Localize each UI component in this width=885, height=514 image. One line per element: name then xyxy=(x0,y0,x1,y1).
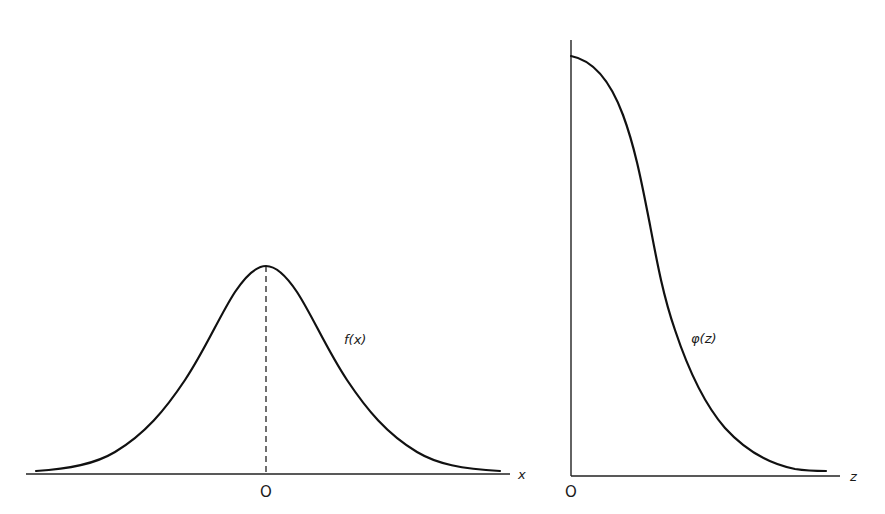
left-panel: f(x) x O xyxy=(26,266,526,501)
left-origin-label: O xyxy=(260,483,272,501)
f-x-label: f(x) xyxy=(344,332,366,347)
x-axis-label: x xyxy=(517,467,526,482)
z-axis-label: z xyxy=(849,469,858,484)
right-origin-label: O xyxy=(565,483,577,501)
phi-z-curve xyxy=(571,56,826,471)
f-x-curve xyxy=(36,266,500,471)
right-panel: φ(z) z O xyxy=(565,40,858,501)
phi-z-label: φ(z) xyxy=(691,331,717,346)
figure-canvas: f(x) x O φ(z) z O xyxy=(0,0,885,514)
